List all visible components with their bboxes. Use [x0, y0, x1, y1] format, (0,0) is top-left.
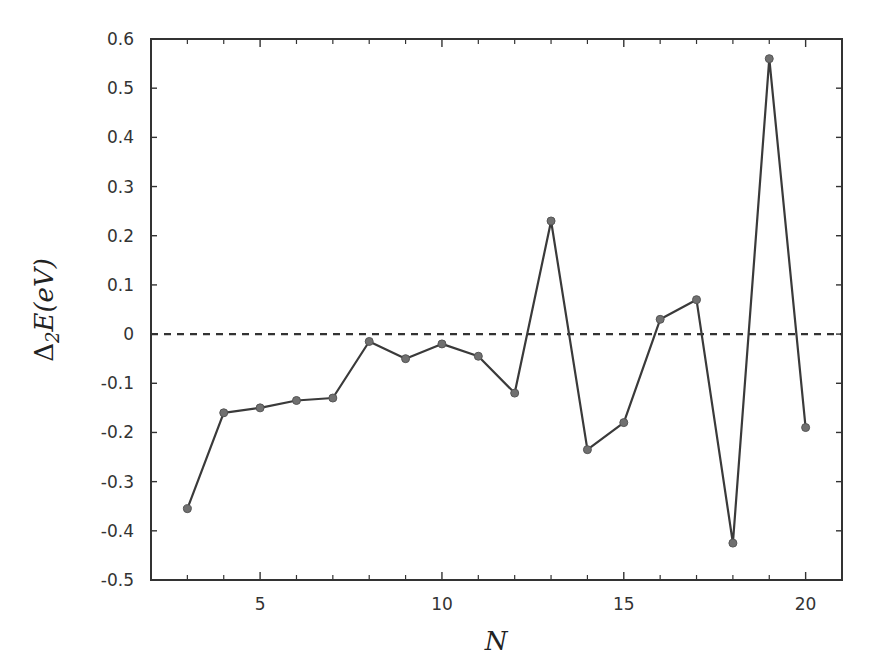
data-point-marker: [183, 505, 191, 513]
y-axis-title-delta: Δ: [29, 343, 59, 362]
y-tick-label: -0.2: [101, 422, 134, 442]
y-tick-label: 0.6: [107, 29, 134, 49]
y-tick-label: 0.1: [107, 275, 134, 295]
data-point-marker: [402, 355, 410, 363]
x-tick-label: 5: [255, 594, 266, 614]
x-tick-label: 15: [613, 594, 635, 614]
svg-text:Δ2E(eV): Δ2E(eV): [29, 258, 63, 362]
y-tick-label: 0.5: [107, 78, 134, 98]
data-point-marker: [765, 55, 773, 63]
data-point-marker: [220, 409, 228, 417]
x-tick-label: 20: [795, 594, 817, 614]
y-tick-label: -0.4: [101, 521, 134, 541]
y-axis-title-rest: E(eV): [29, 258, 59, 332]
plot-frame: [151, 39, 842, 580]
data-point-marker: [474, 352, 482, 360]
data-point-marker: [256, 404, 264, 412]
data-point-marker: [547, 217, 555, 225]
y-axis-title: Δ2E(eV): [29, 258, 63, 362]
y-tick-label: 0: [123, 324, 134, 344]
y-axis: -0.5-0.4-0.3-0.2-0.100.10.20.30.40.50.6: [101, 29, 842, 590]
x-axis-title: N: [484, 626, 509, 656]
y-tick-label: 0.2: [107, 226, 134, 246]
data-point-marker: [620, 419, 628, 427]
y-tick-label: 0.4: [107, 127, 134, 147]
line-chart: 5101520 -0.5-0.4-0.3-0.2-0.100.10.20.30.…: [0, 0, 869, 670]
y-tick-label: 0.3: [107, 177, 134, 197]
series-line: [187, 59, 805, 543]
y-tick-label: -0.3: [101, 472, 134, 492]
plot-area: [151, 39, 842, 580]
y-tick-label: -0.1: [101, 373, 134, 393]
y-axis-title-subscript: 2: [42, 332, 63, 344]
data-point-marker: [729, 539, 737, 547]
data-point-marker: [802, 424, 810, 432]
x-tick-label: 10: [431, 594, 453, 614]
data-point-marker: [693, 296, 701, 304]
data-point-marker: [365, 337, 373, 345]
data-point-marker: [656, 315, 664, 323]
x-axis: 5101520: [187, 39, 816, 614]
data-point-marker: [329, 394, 337, 402]
y-tick-label: -0.5: [101, 570, 134, 590]
data-point-marker: [292, 396, 300, 404]
data-point-marker: [583, 446, 591, 454]
data-point-marker: [511, 389, 519, 397]
data-series: [183, 55, 809, 547]
data-point-marker: [438, 340, 446, 348]
